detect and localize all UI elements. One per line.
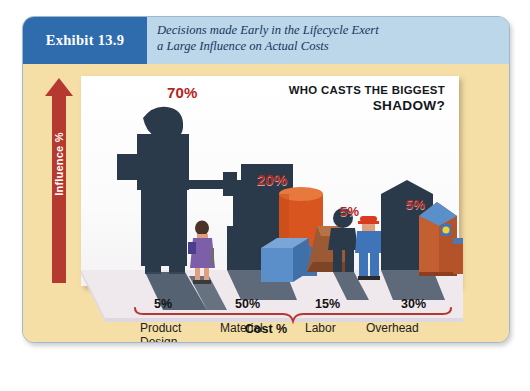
exhibit-title-line1: Decisions made Early in the Lifecycle Ex… (157, 23, 487, 39)
y-axis-label: Influence % (53, 104, 65, 224)
exhibit-header: Exhibit 13.9 Decisions made Early in the… (23, 17, 509, 65)
exhibit-card: Exhibit 13.9 Decisions made Early in the… (22, 16, 510, 343)
influence-label-material: 20% (257, 171, 288, 188)
influence-label-product-design: 70% (167, 84, 198, 101)
exhibit-body: Influence % WHO CASTS THE BIGGEST SHADOW… (23, 64, 509, 342)
category-label-line2: Design (140, 336, 181, 344)
exhibit-title-line2: a Large Influence on Actual Costs (157, 39, 487, 55)
influence-label-labor: 5% (340, 204, 359, 219)
x-axis-label: Cost % (23, 322, 509, 336)
exhibit-page: Exhibit 13.9 Decisions made Early in the… (0, 0, 530, 391)
exhibit-number-tab: Exhibit 13.9 (23, 17, 147, 64)
exhibit-title: Decisions made Early in the Lifecycle Ex… (157, 23, 487, 54)
influence-axis-arrow: Influence % (45, 78, 73, 283)
bar-material-cube (261, 238, 317, 282)
exhibit-number-label: Exhibit 13.9 (46, 32, 125, 49)
bar-overhead-tower (453, 238, 463, 274)
influence-label-overhead: 5% (406, 197, 425, 212)
bar-overhead-house (419, 202, 457, 276)
arrow-head-icon (45, 78, 73, 96)
